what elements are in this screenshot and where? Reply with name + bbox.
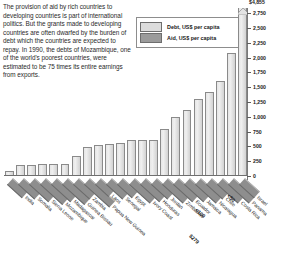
y-axis-tick-label: 1,500 bbox=[253, 84, 266, 90]
y-axis-tick bbox=[247, 146, 251, 147]
x-axis-labels: IndiaSomaliaSierra LeoneMozambiqueMadaga… bbox=[0, 176, 281, 254]
bar bbox=[94, 145, 103, 176]
bar bbox=[160, 129, 169, 176]
y-axis-tick-label: 750 bbox=[253, 129, 262, 135]
bar bbox=[171, 117, 180, 176]
y-axis-tick bbox=[247, 102, 251, 103]
y-axis: $4,855 02505007501,0001,2501,5001,7502,0… bbox=[247, 0, 281, 180]
y-axis-tick bbox=[247, 13, 251, 14]
bar bbox=[138, 140, 147, 176]
chart-figure: The provision of aid by rich countries t… bbox=[0, 0, 281, 254]
y-axis-tick-label: 500 bbox=[253, 143, 262, 149]
bar bbox=[227, 53, 236, 176]
x-axis-label-text: Papua New Guinea bbox=[112, 203, 148, 236]
y-axis-tick-label: 1,750 bbox=[253, 69, 266, 75]
y-axis-tick bbox=[247, 132, 251, 133]
bar bbox=[205, 92, 214, 176]
y-axis-tick-label: 2,250 bbox=[253, 40, 266, 46]
y-axis-tick-label: 2,000 bbox=[253, 55, 266, 61]
bar bbox=[183, 110, 192, 176]
bar bbox=[116, 143, 125, 176]
y-axis-tick bbox=[247, 28, 251, 29]
y-axis-tick bbox=[247, 161, 251, 162]
y-axis-top-label: $4,855 bbox=[249, 0, 265, 5]
bar bbox=[127, 140, 136, 176]
y-axis-tick bbox=[247, 117, 251, 118]
y-axis-tick bbox=[247, 72, 251, 73]
y-axis-tick bbox=[247, 43, 251, 44]
y-axis-tick bbox=[247, 87, 251, 88]
bar bbox=[105, 144, 114, 176]
bar-group bbox=[4, 6, 248, 176]
plot-area bbox=[4, 6, 248, 176]
bar-broken-tip bbox=[238, 1, 245, 8]
y-axis-tick bbox=[247, 58, 251, 59]
y-axis-tick-label: 250 bbox=[253, 158, 262, 164]
y-axis-tick-label: 1,250 bbox=[253, 99, 266, 105]
bar bbox=[149, 140, 158, 176]
bar bbox=[83, 147, 92, 176]
y-axis-tick-label: 2,500 bbox=[253, 25, 266, 31]
y-axis-tick-label: 2,750 bbox=[253, 10, 266, 16]
y-axis-tick-label: 1,000 bbox=[253, 114, 266, 120]
bar bbox=[194, 99, 203, 176]
bar bbox=[72, 156, 81, 176]
y-axis-line bbox=[247, 8, 248, 180]
bar bbox=[238, 8, 247, 176]
bar bbox=[216, 81, 225, 176]
